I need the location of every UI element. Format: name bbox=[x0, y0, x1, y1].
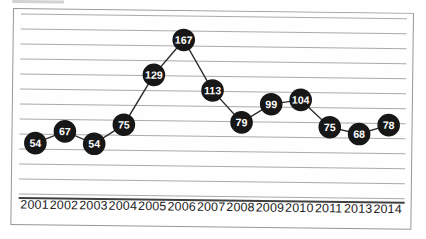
x-axis-label: 2004 bbox=[109, 199, 138, 213]
x-axis-label: 2013 bbox=[344, 202, 373, 216]
scan-tilt-wrapper: 5420016720025420037520041292005167200611… bbox=[0, 0, 426, 239]
data-point: 54 bbox=[24, 132, 47, 155]
x-axis-label: 2003 bbox=[79, 198, 108, 212]
gridline bbox=[20, 119, 406, 124]
gridline bbox=[21, 29, 407, 34]
data-point-value: 99 bbox=[265, 98, 277, 110]
chart-frame: 5420016720025420037520041292005167200611… bbox=[10, 8, 414, 230]
data-point-value: 167 bbox=[175, 34, 193, 46]
x-axis-label: 2007 bbox=[197, 200, 226, 214]
scan-artifact bbox=[12, 0, 64, 4]
x-axis-label: 2002 bbox=[50, 198, 79, 212]
x-axis-label: 2008 bbox=[226, 200, 255, 214]
data-point-value: 54 bbox=[29, 137, 41, 149]
data-point-value: 129 bbox=[145, 69, 163, 81]
data-point: 78 bbox=[377, 114, 400, 137]
data-point-value: 104 bbox=[292, 94, 310, 106]
data-point-value: 68 bbox=[353, 128, 365, 140]
data-point-value: 67 bbox=[59, 125, 71, 137]
x-axis-label: 2011 bbox=[315, 201, 343, 215]
data-point-value: 75 bbox=[118, 118, 130, 130]
data-point: 68 bbox=[348, 123, 371, 146]
gridline bbox=[20, 74, 406, 79]
x-axis-label: 2009 bbox=[256, 200, 285, 214]
line-chart-svg: 5420016720025420037520041292005167200611… bbox=[11, 9, 413, 229]
gridline bbox=[20, 59, 406, 64]
x-axis-label: 2014 bbox=[373, 202, 402, 216]
data-point: 75 bbox=[112, 113, 135, 136]
x-axis-label: 2001 bbox=[20, 198, 49, 212]
data-point: 99 bbox=[260, 93, 283, 116]
data-point: 54 bbox=[83, 132, 106, 155]
data-point-value: 78 bbox=[383, 119, 395, 131]
data-point: 167 bbox=[172, 28, 195, 51]
chart-image: 5420016720025420037520041292005167200611… bbox=[0, 0, 426, 239]
data-point: 129 bbox=[142, 63, 165, 86]
gridline bbox=[21, 44, 407, 49]
data-point-value: 75 bbox=[324, 121, 336, 133]
x-axis-label: 2006 bbox=[167, 199, 196, 213]
gridline bbox=[19, 164, 405, 169]
gridline bbox=[19, 179, 405, 184]
gridline bbox=[21, 14, 407, 19]
x-axis-label: 2005 bbox=[138, 199, 167, 213]
data-point-value: 113 bbox=[204, 84, 221, 96]
data-point: 67 bbox=[53, 120, 76, 143]
x-axis-label: 2010 bbox=[285, 201, 314, 215]
data-point-value: 54 bbox=[88, 138, 100, 150]
gridline bbox=[19, 149, 405, 154]
data-point-value: 79 bbox=[236, 116, 248, 128]
gridline bbox=[20, 104, 406, 109]
